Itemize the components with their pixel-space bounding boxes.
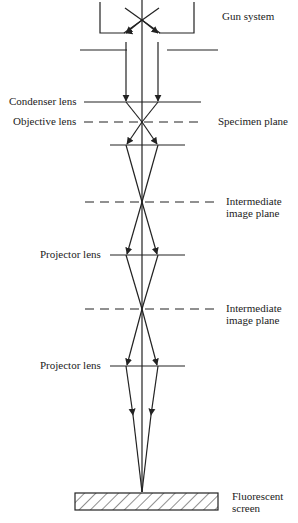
label-projector-lens-2: Projector lens (40, 359, 101, 372)
label-screen-line2: screen (232, 502, 260, 515)
tem-ray-diagram (0, 0, 298, 523)
fluorescent-screen (75, 493, 218, 510)
gun-cup-left (100, 2, 125, 33)
label-intermediate-plane-1-line2: image plane (226, 207, 279, 220)
label-projector-lens-1: Projector lens (40, 248, 101, 261)
gun-arrow-right (142, 20, 158, 33)
label-intermediate-plane-2-line2: image plane (226, 314, 279, 327)
gun-cup-right (159, 2, 194, 33)
label-condenser-lens: Condenser lens (9, 95, 77, 108)
label-gun-system: Gun system (222, 10, 274, 23)
label-objective-lens: Objective lens (13, 115, 76, 128)
gun-arrow-left (126, 20, 142, 33)
label-specimen-plane: Specimen plane (218, 115, 288, 128)
